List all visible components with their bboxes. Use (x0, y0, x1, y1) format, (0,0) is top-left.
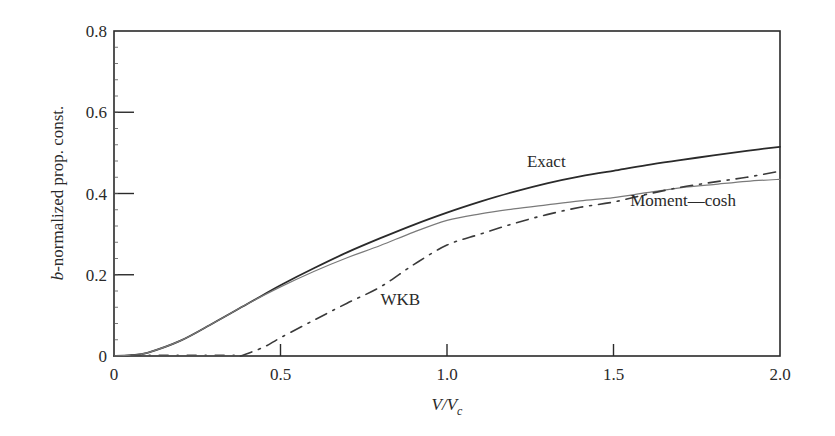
y-axis-label-italic: b (48, 272, 67, 281)
y-tick-label: 0.6 (86, 103, 107, 122)
y-axis-label-rest: -normalized prop. const. (48, 106, 67, 272)
x-axis-ticks: 00.51.01.52.0 (110, 344, 791, 384)
x-axis-label-sub: c (457, 404, 463, 418)
x-tick-label: 2.0 (769, 365, 790, 384)
annotation-wkb: WKB (380, 290, 420, 309)
x-tick-label: 1.0 (436, 365, 457, 384)
annotations: ExactMoment—coshWKB (380, 152, 736, 309)
x-tick-label: 0.5 (270, 365, 291, 384)
y-tick-label: 0.4 (86, 185, 108, 204)
series-exact (114, 147, 780, 356)
series-layer (114, 147, 780, 356)
chart: 00.20.40.60.8 00.51.01.52.0 ExactMoment—… (0, 0, 835, 436)
x-tick-label: 0 (110, 365, 119, 384)
y-axis-ticks: 00.20.40.60.8 (86, 22, 134, 366)
y-axis-label: b-normalized prop. const. (48, 106, 67, 281)
y-tick-label: 0.2 (86, 266, 107, 285)
y-tick-label: 0.8 (86, 22, 107, 41)
x-axis-label: V/Vc (432, 395, 464, 418)
annotation-exact: Exact (527, 152, 566, 171)
x-tick-label: 1.5 (603, 365, 624, 384)
y-tick-label: 0 (99, 347, 108, 366)
annotation-moment-cosh: Moment—cosh (630, 191, 736, 210)
x-axis-label-main: V/V (432, 395, 460, 414)
